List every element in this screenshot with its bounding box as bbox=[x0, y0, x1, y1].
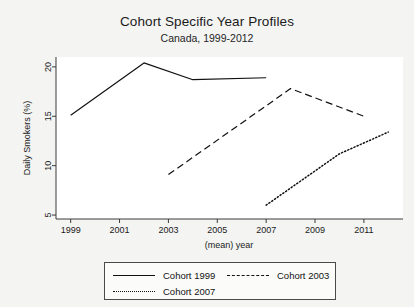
legend-item-cohort-2007[interactable]: Cohort 2007 bbox=[113, 283, 215, 299]
svg-text:2001: 2001 bbox=[110, 225, 130, 235]
plot-background bbox=[56, 57, 403, 219]
legend-label: Cohort 2007 bbox=[163, 286, 215, 297]
svg-text:2011: 2011 bbox=[354, 225, 373, 235]
plot-svg: 5101520 1999200120032005200720092011 Dai… bbox=[0, 0, 414, 307]
chart-figure: Cohort Specific Year Profiles Canada, 19… bbox=[0, 0, 414, 307]
svg-text:5: 5 bbox=[43, 213, 53, 218]
svg-text:2005: 2005 bbox=[207, 225, 227, 235]
legend-label: Cohort 1999 bbox=[163, 270, 215, 281]
legend-key-dashed-icon bbox=[227, 270, 269, 280]
plot-area: 5101520 1999200120032005200720092011 Dai… bbox=[0, 0, 414, 307]
x-axis-ticks: 1999200120032005200720092011 bbox=[61, 219, 374, 235]
svg-text:10: 10 bbox=[43, 161, 53, 171]
svg-text:15: 15 bbox=[43, 111, 53, 121]
y-axis-title: Daily Smokers (%) bbox=[22, 101, 32, 176]
legend-item-cohort-2003[interactable]: Cohort 2003 bbox=[227, 267, 329, 283]
svg-text:20: 20 bbox=[43, 62, 53, 72]
svg-text:1999: 1999 bbox=[61, 225, 81, 235]
svg-text:2007: 2007 bbox=[256, 225, 276, 235]
x-axis-title: (mean) year bbox=[205, 240, 254, 250]
chart-legend: Cohort 1999 Cohort 2003 Cohort 2007 bbox=[104, 262, 336, 300]
legend-label: Cohort 2003 bbox=[277, 270, 329, 281]
legend-item-cohort-1999[interactable]: Cohort 1999 bbox=[113, 267, 215, 283]
legend-key-solid-icon bbox=[113, 270, 155, 280]
legend-key-dotted-icon bbox=[113, 286, 155, 296]
svg-text:2003: 2003 bbox=[158, 225, 178, 235]
svg-text:2009: 2009 bbox=[305, 225, 325, 235]
y-axis-ticks: 5101520 bbox=[43, 62, 56, 218]
